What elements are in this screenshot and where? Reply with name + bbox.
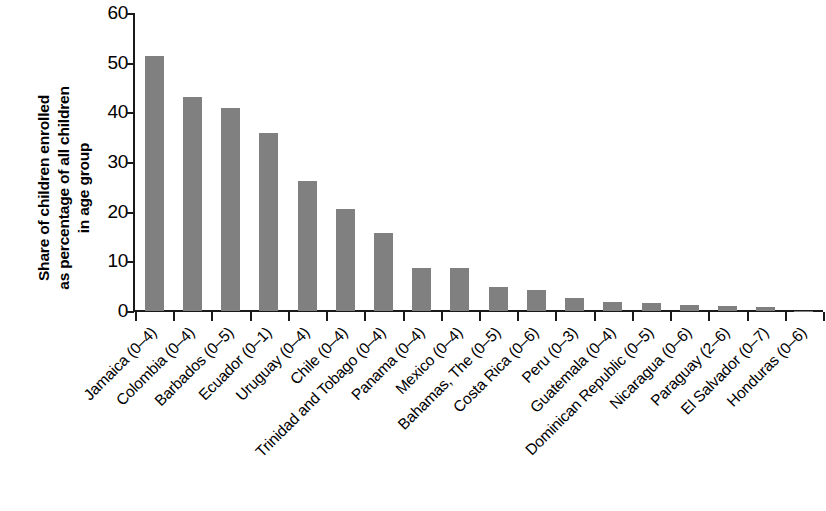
x-tick-mark-18 — [823, 312, 825, 321]
x-tick-mark-3 — [250, 312, 252, 321]
x-tick-mark-2 — [211, 312, 213, 321]
y-tick-label-50: 50 — [84, 53, 128, 72]
bar[interactable] — [718, 306, 737, 311]
x-tick-mark-5 — [326, 312, 328, 321]
x-tick-mark-13 — [632, 312, 634, 321]
x-tick-mark-6 — [364, 312, 366, 321]
y-tick-label-10: 10 — [84, 251, 128, 270]
y-tick-label-0: 0 — [84, 301, 128, 320]
x-tick-mark-15 — [708, 312, 710, 321]
x-tick-mark-1 — [173, 312, 175, 321]
y-tick-mark-60 — [126, 13, 134, 15]
plot-area — [135, 0, 823, 311]
x-tick-mark-14 — [670, 312, 672, 321]
bar[interactable] — [489, 287, 508, 311]
y-tick-label-60: 60 — [84, 3, 128, 22]
bar[interactable] — [756, 307, 775, 311]
x-tick-mark-8 — [441, 312, 443, 321]
bar[interactable] — [527, 290, 546, 311]
bar[interactable] — [412, 268, 431, 311]
y-axis-title-line-1: Share of children enrolled — [34, 95, 54, 281]
x-tick-mark-7 — [403, 312, 405, 321]
bar[interactable] — [374, 233, 393, 311]
y-tick-mark-10 — [126, 261, 134, 263]
bar[interactable] — [603, 302, 622, 311]
x-tick-mark-17 — [785, 312, 787, 321]
y-tick-label-40: 40 — [84, 102, 128, 121]
x-tick-mark-16 — [747, 312, 749, 321]
bar[interactable] — [336, 209, 355, 311]
x-tick-mark-11 — [555, 312, 557, 321]
bar[interactable] — [183, 97, 202, 311]
bar[interactable] — [259, 133, 278, 311]
y-tick-label-30: 30 — [84, 152, 128, 171]
bar[interactable] — [642, 303, 661, 311]
bar[interactable] — [565, 298, 584, 311]
bar[interactable] — [145, 56, 164, 311]
y-tick-label-20: 20 — [84, 202, 128, 221]
y-tick-mark-40 — [126, 112, 134, 114]
x-tick-mark-9 — [479, 312, 481, 321]
y-axis-tick-labels: 0102030405060 — [84, 0, 128, 330]
y-axis-title-line-2: as percentage of all children — [54, 86, 74, 290]
x-tick-mark-10 — [517, 312, 519, 321]
y-tick-mark-50 — [126, 63, 134, 65]
bar-chart: Share of children enrolled as percentage… — [0, 0, 826, 511]
y-tick-mark-20 — [126, 212, 134, 214]
y-tick-mark-0 — [126, 311, 134, 313]
x-tick-mark-0 — [135, 312, 137, 321]
bar[interactable] — [450, 268, 469, 311]
x-tick-mark-12 — [594, 312, 596, 321]
y-tick-mark-30 — [126, 162, 134, 164]
x-tick-mark-4 — [288, 312, 290, 321]
bar[interactable] — [680, 305, 699, 311]
bar[interactable] — [221, 108, 240, 311]
bar[interactable] — [298, 181, 317, 311]
